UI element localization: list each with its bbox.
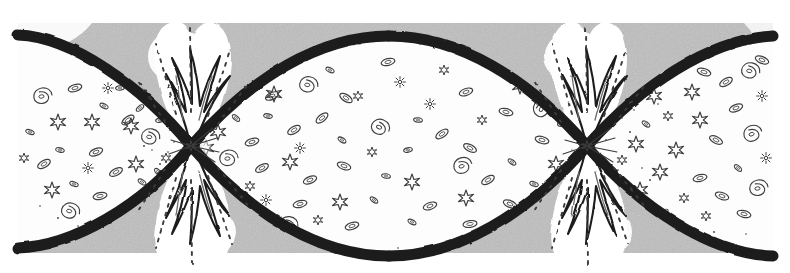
oscillating-universe-artwork bbox=[0, 0, 790, 273]
illustration-figure: Oscillating (cyclic) universe diagram Ha… bbox=[0, 0, 790, 273]
